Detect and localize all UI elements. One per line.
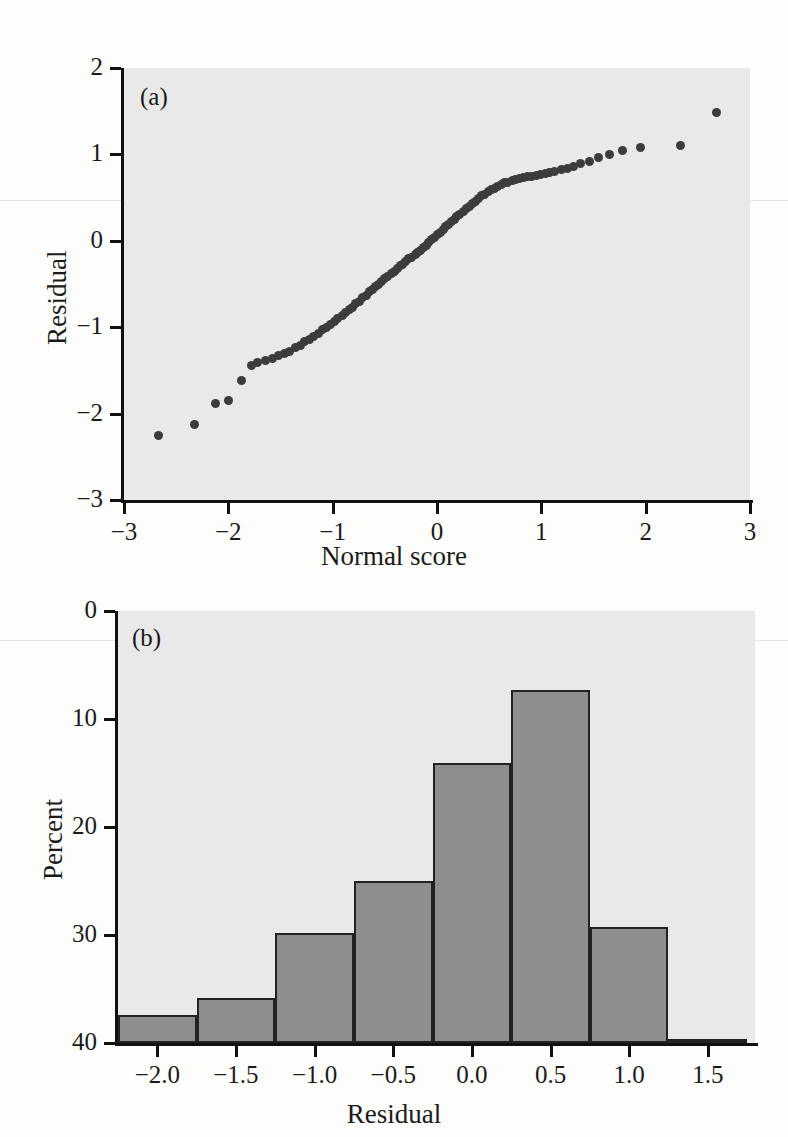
histogram-bar bbox=[197, 998, 276, 1043]
scatter-point bbox=[712, 108, 721, 117]
panel-a-y-tick bbox=[110, 67, 121, 70]
panel-b-x-tick-label: −1.5 bbox=[196, 1062, 276, 1087]
panel-a-x-tick bbox=[645, 503, 648, 514]
scatter-point bbox=[605, 150, 614, 159]
panel-b-y-tick-label: 0 bbox=[42, 597, 97, 622]
panel-b-x-tick-label: −2.0 bbox=[117, 1062, 197, 1087]
histogram-bar bbox=[118, 1015, 197, 1043]
panel-b-x-tick-label: −0.5 bbox=[353, 1062, 433, 1087]
panel-a-y-tick-label: 1 bbox=[55, 140, 103, 165]
scatter-point bbox=[211, 399, 220, 408]
panel-b-y-tick bbox=[104, 1042, 115, 1045]
histogram-bar bbox=[668, 1039, 747, 1043]
histogram-bar bbox=[433, 763, 512, 1043]
panel-b-y-tick-label: 40 bbox=[42, 1029, 97, 1054]
panel-b-y-axis-title: Percent bbox=[40, 799, 67, 880]
panel-a-x-tick-label: 3 bbox=[720, 519, 780, 544]
panel-a-y-tick bbox=[110, 326, 121, 329]
panel-b-y-tick bbox=[104, 610, 115, 613]
scatter-point bbox=[636, 143, 645, 152]
panel-a-y-tick-label: 2 bbox=[55, 54, 103, 79]
panel-b-y-tick-label: 10 bbox=[42, 705, 97, 730]
panel-b-tag: (b) bbox=[132, 625, 161, 650]
panel-a-x-tick-label: 2 bbox=[616, 519, 676, 544]
panel-b: 403020100 −2.0−1.5−1.0−0.50.00.51.01.5 (… bbox=[0, 580, 788, 1137]
panel-b-x-tick bbox=[628, 1046, 631, 1057]
panel-a: 210−1−2−3 −3−2−10123 (a) Residual Normal… bbox=[0, 0, 788, 580]
panel-b-x-tick-label: 1.0 bbox=[589, 1062, 669, 1087]
panel-b-x-tick-label: 0.0 bbox=[432, 1062, 512, 1087]
panel-b-y-tick-label: 30 bbox=[42, 921, 97, 946]
figure-residual-diagnostics: 210−1−2−3 −3−2−10123 (a) Residual Normal… bbox=[0, 0, 788, 1137]
panel-b-y-tick bbox=[104, 718, 115, 721]
panel-b-x-axis bbox=[115, 1043, 758, 1046]
panel-a-x-tick bbox=[332, 503, 335, 514]
histogram-bar bbox=[590, 927, 669, 1043]
panel-b-x-tick-label: −1.0 bbox=[275, 1062, 355, 1087]
panel-a-x-tick bbox=[227, 503, 230, 514]
scatter-point bbox=[154, 431, 163, 440]
panel-a-y-axis bbox=[121, 68, 124, 503]
panel-a-y-tick bbox=[110, 153, 121, 156]
panel-a-x-tick bbox=[749, 503, 752, 514]
panel-a-plot-area bbox=[124, 68, 750, 500]
histogram-bar bbox=[275, 933, 354, 1043]
panel-a-y-tick-label: −3 bbox=[55, 486, 103, 511]
panel-a-y-tick-label: −2 bbox=[55, 400, 103, 425]
histogram-bar bbox=[511, 690, 590, 1043]
panel-a-tag: (a) bbox=[140, 84, 168, 109]
panel-a-x-axis-title: Normal score bbox=[0, 543, 788, 570]
panel-a-x-tick bbox=[436, 503, 439, 514]
panel-b-x-tick bbox=[550, 1046, 553, 1057]
panel-a-x-tick-label: −3 bbox=[94, 519, 154, 544]
scatter-point bbox=[676, 141, 685, 150]
panel-a-x-tick bbox=[540, 503, 543, 514]
panel-b-y-tick bbox=[104, 934, 115, 937]
panel-a-y-tick bbox=[110, 413, 121, 416]
panel-a-x-tick-label: 1 bbox=[511, 519, 571, 544]
panel-b-x-tick-label: 0.5 bbox=[511, 1062, 591, 1087]
panel-b-x-tick bbox=[707, 1046, 710, 1057]
panel-a-y-axis-title: Residual bbox=[44, 251, 71, 346]
scatter-point bbox=[224, 396, 233, 405]
panel-a-y-tick bbox=[110, 499, 121, 502]
panel-a-y-tick-label: 0 bbox=[55, 227, 103, 252]
panel-a-y-tick bbox=[110, 240, 121, 243]
panel-b-y-tick bbox=[104, 826, 115, 829]
panel-b-x-tick bbox=[235, 1046, 238, 1057]
panel-b-x-tick bbox=[314, 1046, 317, 1057]
panel-b-x-tick bbox=[392, 1046, 395, 1057]
panel-a-x-tick bbox=[123, 503, 126, 514]
panel-b-x-tick bbox=[156, 1046, 159, 1057]
panel-b-x-tick bbox=[471, 1046, 474, 1057]
panel-b-x-tick-label: 1.5 bbox=[668, 1062, 748, 1087]
histogram-bar bbox=[354, 881, 433, 1043]
scatter-point bbox=[618, 146, 627, 155]
panel-a-x-tick-label: −2 bbox=[198, 519, 258, 544]
scatter-point bbox=[585, 157, 594, 166]
panel-b-y-axis bbox=[115, 611, 118, 1046]
panel-b-x-axis-title: Residual bbox=[0, 1101, 788, 1128]
